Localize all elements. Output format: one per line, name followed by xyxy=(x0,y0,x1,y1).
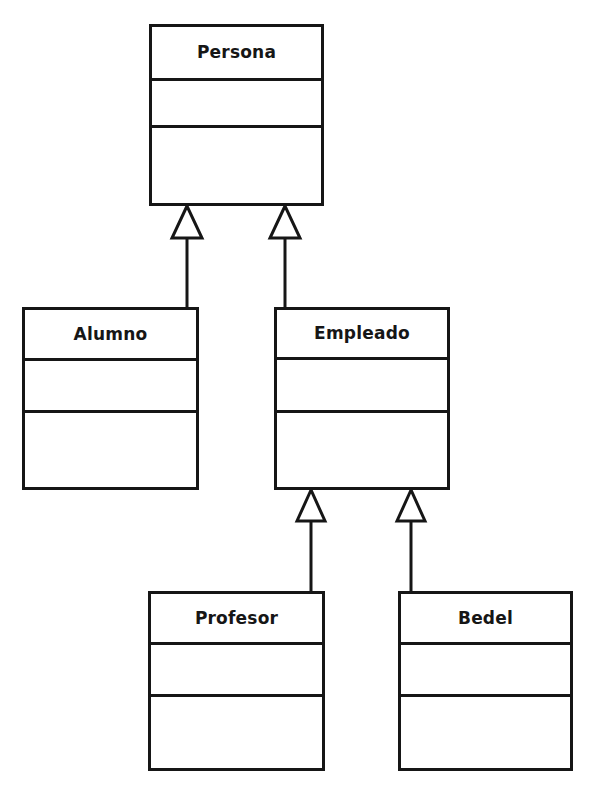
uml-class-empleado[interactable]: Empleado xyxy=(274,307,450,490)
alumno-class-name: Alumno xyxy=(74,326,148,343)
alumno-operations-compartment xyxy=(25,413,196,487)
empleado-operations-compartment xyxy=(277,413,447,487)
hollow-triangle-arrowhead-icon xyxy=(172,206,202,238)
bedel-name-compartment: Bedel xyxy=(401,594,570,645)
bedel-operations-compartment xyxy=(401,697,570,768)
bedel-class-name: Bedel xyxy=(458,610,513,627)
empleado-attributes-compartment xyxy=(277,360,447,413)
hollow-triangle-arrowhead-icon xyxy=(270,206,300,238)
uml-diagram-canvas: Persona Alumno Empleado Profesor Bedel xyxy=(0,0,590,795)
hollow-triangle-arrowhead-icon xyxy=(297,490,325,521)
profesor-operations-compartment xyxy=(151,697,322,768)
alumno-attributes-compartment xyxy=(25,361,196,413)
profesor-class-name: Profesor xyxy=(195,610,278,627)
uml-class-bedel[interactable]: Bedel xyxy=(398,591,573,771)
empleado-name-compartment: Empleado xyxy=(277,310,447,360)
uml-class-profesor[interactable]: Profesor xyxy=(148,591,325,771)
hollow-triangle-arrowhead-icon xyxy=(397,490,425,521)
persona-attributes-compartment xyxy=(152,81,321,128)
alumno-name-compartment: Alumno xyxy=(25,310,196,361)
persona-name-compartment: Persona xyxy=(152,27,321,81)
empleado-class-name: Empleado xyxy=(314,325,410,342)
profesor-name-compartment: Profesor xyxy=(151,594,322,645)
bedel-attributes-compartment xyxy=(401,645,570,697)
uml-class-alumno[interactable]: Alumno xyxy=(22,307,199,490)
persona-class-name: Persona xyxy=(197,44,276,61)
persona-operations-compartment xyxy=(152,128,321,203)
profesor-attributes-compartment xyxy=(151,645,322,697)
uml-class-persona[interactable]: Persona xyxy=(149,24,324,206)
